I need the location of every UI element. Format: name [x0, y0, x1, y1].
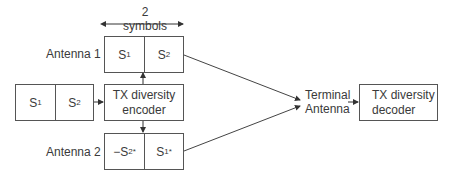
- symbol-subscript: 1: [126, 50, 130, 59]
- antenna1-cell-1: S1: [105, 37, 144, 72]
- symbol-superscript: *: [169, 147, 172, 156]
- symbol-base: S: [68, 96, 76, 110]
- tx-diversity-decoder: TX diversity decoder: [359, 84, 438, 121]
- antenna2-label: Antenna 2: [46, 145, 101, 159]
- decoder-line2: decoder: [372, 103, 415, 118]
- input-symbol-block: S1 S2: [15, 84, 94, 121]
- symbol-superscript: *: [133, 147, 136, 156]
- antenna2-cell-1: −S2*: [105, 134, 144, 169]
- antenna2-to-terminal-arrow: [184, 106, 300, 151]
- symbol-base: S: [156, 145, 164, 159]
- tx-diversity-encoder: TX diversity encoder: [104, 84, 184, 121]
- symbol-base: S: [118, 48, 126, 62]
- encoder-line2: encoder: [122, 103, 165, 118]
- antenna2-symbol-block: −S2* S1*: [104, 133, 184, 170]
- antenna1-cell-2: S2: [145, 37, 183, 72]
- antenna2-cell-2: S1*: [145, 134, 183, 169]
- symbol-base: S: [29, 96, 37, 110]
- symbol-subscript: 1: [37, 98, 41, 107]
- terminal-antenna-label: Terminal Antenna: [305, 88, 350, 116]
- terminal-line2: Antenna: [305, 102, 350, 116]
- symbol-base: −S: [113, 145, 128, 159]
- symbol-subscript: 2: [166, 50, 170, 59]
- antenna1-symbol-block: S1 S2: [104, 36, 184, 73]
- terminal-line1: Terminal: [305, 88, 350, 102]
- symbol-subscript: 2: [76, 98, 80, 107]
- encoder-line1: TX diversity: [113, 88, 176, 103]
- decoder-line1: TX diversity: [372, 88, 435, 103]
- input-cell-2: S2: [56, 85, 93, 120]
- span-label: 2 symbols: [120, 5, 170, 33]
- antenna1-label: Antenna 1: [46, 47, 101, 61]
- input-cell-1: S1: [16, 85, 55, 120]
- symbol-base: S: [158, 48, 166, 62]
- antenna1-to-terminal-arrow: [184, 55, 300, 100]
